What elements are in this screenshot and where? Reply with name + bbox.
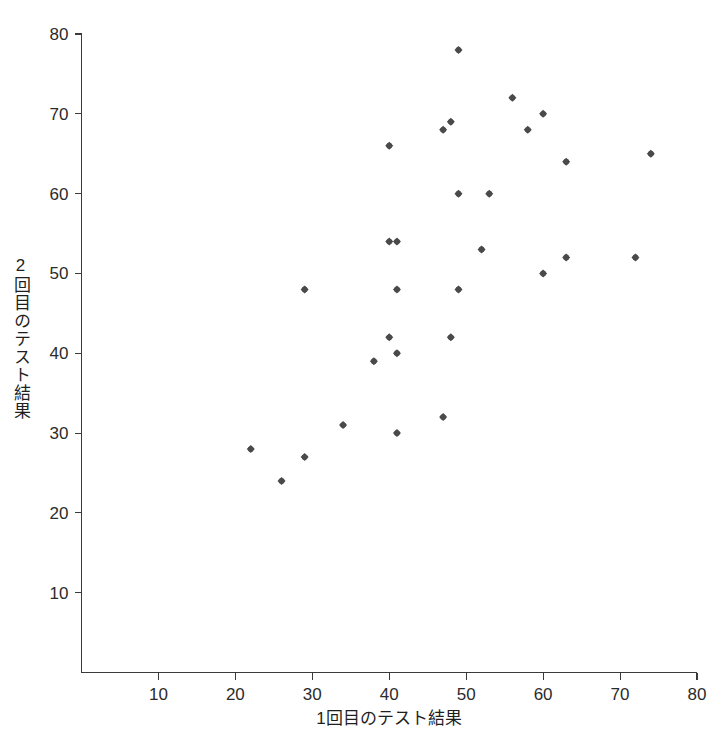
marker-core bbox=[563, 255, 569, 261]
x-tick-label: 80 bbox=[688, 685, 707, 704]
y-tick-label: 20 bbox=[50, 504, 69, 523]
marker-core bbox=[648, 151, 654, 157]
y-tick-label: 30 bbox=[50, 424, 69, 443]
marker-core bbox=[509, 95, 515, 101]
data-point bbox=[478, 245, 486, 253]
data-point bbox=[454, 190, 462, 198]
marker-core bbox=[386, 239, 392, 245]
marker-core bbox=[448, 119, 454, 125]
y-tick-label: 50 bbox=[50, 264, 69, 283]
x-axis-title: 1回目のテスト結果 bbox=[316, 709, 461, 728]
y-tick-label: 70 bbox=[50, 105, 69, 124]
x-tick-label: 40 bbox=[380, 685, 399, 704]
y-axis-title: 2回目のテスト結果 bbox=[12, 256, 36, 420]
x-tick-label: 60 bbox=[534, 685, 553, 704]
marker-core bbox=[386, 334, 392, 340]
data-point bbox=[524, 126, 532, 134]
x-tick-group: 1020304050607080 bbox=[149, 673, 706, 704]
marker-core bbox=[456, 191, 462, 197]
marker-core bbox=[448, 334, 454, 340]
marker-core bbox=[302, 287, 308, 293]
plot-canvas: 1020304050607080 1020304050607080 1回目のテス… bbox=[0, 0, 726, 752]
data-point bbox=[447, 333, 455, 341]
data-point bbox=[454, 285, 462, 293]
data-point bbox=[370, 357, 378, 365]
x-tick-label: 20 bbox=[226, 685, 245, 704]
data-point bbox=[539, 110, 547, 118]
data-point bbox=[631, 253, 639, 261]
marker-core bbox=[248, 446, 254, 452]
marker-core bbox=[394, 239, 400, 245]
data-point bbox=[301, 285, 309, 293]
y-tick-label: 60 bbox=[50, 185, 69, 204]
data-point bbox=[539, 269, 547, 277]
marker-core bbox=[440, 127, 446, 133]
y-tick-label: 40 bbox=[50, 344, 69, 363]
data-point bbox=[562, 158, 570, 166]
marker-core bbox=[540, 111, 546, 117]
marker-core bbox=[563, 159, 569, 165]
data-point bbox=[647, 150, 655, 158]
marker-core bbox=[540, 271, 546, 277]
x-tick-label: 70 bbox=[611, 685, 630, 704]
data-point bbox=[278, 477, 286, 485]
data-point bbox=[385, 238, 393, 246]
data-point bbox=[439, 126, 447, 134]
x-tick-label: 10 bbox=[149, 685, 168, 704]
data-point bbox=[454, 46, 462, 54]
marker-core bbox=[394, 350, 400, 356]
data-point bbox=[485, 190, 493, 198]
marker-core bbox=[525, 127, 531, 133]
marker-core bbox=[302, 454, 308, 460]
marker-core bbox=[371, 358, 377, 364]
data-point bbox=[301, 453, 309, 461]
data-point bbox=[393, 349, 401, 357]
data-point bbox=[393, 238, 401, 246]
x-tick-label: 50 bbox=[457, 685, 476, 704]
data-point bbox=[339, 421, 347, 429]
y-tick-group: 1020304050607080 bbox=[50, 25, 82, 603]
marker-core bbox=[279, 478, 285, 484]
data-point bbox=[385, 333, 393, 341]
marker-core bbox=[633, 255, 639, 261]
data-point bbox=[393, 429, 401, 437]
marker-core bbox=[394, 430, 400, 436]
scatter-chart: 1020304050607080 1020304050607080 1回目のテス… bbox=[0, 0, 726, 752]
data-point bbox=[393, 285, 401, 293]
marker-core bbox=[456, 287, 462, 293]
marker-core bbox=[456, 47, 462, 53]
data-point bbox=[385, 142, 393, 150]
marker-core bbox=[340, 422, 346, 428]
marker-core bbox=[486, 191, 492, 197]
axes-group bbox=[82, 34, 698, 673]
y-tick-label: 80 bbox=[50, 25, 69, 44]
data-point bbox=[562, 253, 570, 261]
marker-core bbox=[386, 143, 392, 149]
data-point bbox=[247, 445, 255, 453]
data-point bbox=[447, 118, 455, 126]
y-axis-title-text: 2回目のテスト結果 bbox=[12, 256, 29, 420]
y-tick-label: 10 bbox=[50, 584, 69, 603]
marker-core bbox=[440, 414, 446, 420]
data-point bbox=[439, 413, 447, 421]
marker-core bbox=[394, 287, 400, 293]
data-points-layer bbox=[247, 46, 655, 485]
data-point bbox=[508, 94, 516, 102]
x-tick-label: 30 bbox=[303, 685, 322, 704]
marker-core bbox=[479, 247, 485, 253]
